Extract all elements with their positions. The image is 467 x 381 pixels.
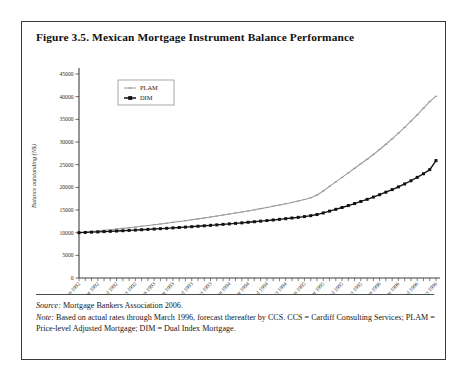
y-tick-label: 25000: [60, 162, 74, 168]
svg-text:Jan 1993: Jan 1993: [139, 280, 157, 294]
data-point-plam: [372, 154, 375, 155]
data-point-plam: [322, 190, 325, 191]
svg-text:Oct 1996: Oct 1996: [420, 280, 438, 294]
data-point-dim: [190, 225, 193, 228]
source-line: Source: Mortgage Bankers Association 200…: [36, 300, 436, 312]
svg-text:Apr 1995: Apr 1995: [307, 280, 326, 294]
data-point-dim: [222, 223, 225, 226]
y-tick-label: 30000: [60, 139, 74, 145]
footnote-divider: [36, 294, 434, 295]
y-tick-label: 0: [71, 275, 74, 281]
data-point-plam: [378, 149, 381, 150]
data-point-dim: [284, 217, 287, 220]
series-line-dim: [79, 161, 436, 233]
svg-text:Apr 1993: Apr 1993: [157, 280, 176, 294]
data-point-dim: [121, 229, 124, 232]
data-point-plam: [146, 225, 149, 226]
x-tick-label: Jul 1994: [252, 280, 269, 294]
data-point-dim: [316, 213, 319, 216]
data-point-dim: [403, 182, 406, 185]
data-point-dim: [334, 208, 337, 211]
data-point-plam: [115, 229, 118, 230]
data-point-dim: [409, 179, 412, 182]
data-point-dim: [265, 219, 268, 222]
data-point-dim: [171, 226, 174, 229]
data-point-plam: [278, 205, 281, 206]
svg-text:Oct 1994: Oct 1994: [270, 280, 288, 294]
x-tick-label: Jul 1995: [327, 280, 344, 294]
data-point-dim: [341, 206, 344, 209]
data-point-plam: [359, 163, 362, 164]
data-point-dim: [134, 229, 137, 232]
data-point-plam: [309, 197, 312, 198]
data-point-plam: [172, 222, 175, 223]
data-point-plam: [253, 209, 256, 210]
y-axis-title: Balance outstanding (N$): [30, 144, 38, 208]
svg-text:Jan 1995: Jan 1995: [289, 280, 307, 294]
svg-text:Oct 1995: Oct 1995: [345, 280, 363, 294]
data-point-plam: [391, 138, 394, 139]
data-point-dim: [234, 222, 237, 225]
data-point-plam: [222, 215, 225, 216]
data-point-plam: [353, 168, 356, 169]
data-point-dim: [96, 230, 99, 233]
svg-text:Jul 1992: Jul 1992: [102, 280, 119, 294]
data-point-dim: [391, 188, 394, 191]
x-tick-label: Oct 1993: [195, 280, 213, 294]
data-point-dim: [384, 191, 387, 194]
note-label: Note:: [36, 313, 54, 322]
data-point-plam: [128, 227, 131, 228]
figure-title: Figure 3.5. Mexican Mortgage Instrument …: [36, 31, 436, 43]
data-point-plam: [303, 199, 306, 200]
data-point-dim: [165, 227, 168, 230]
data-point-plam: [428, 101, 431, 102]
data-point-dim: [203, 224, 206, 227]
data-point-dim: [253, 220, 256, 223]
data-point-dim: [422, 172, 425, 175]
x-tick-label: Jan 1995: [289, 280, 307, 294]
data-point-dim: [353, 202, 356, 205]
svg-text:Jul 1993: Jul 1993: [177, 280, 194, 294]
data-point-plam: [234, 213, 237, 214]
data-point-dim: [322, 211, 325, 214]
x-tick-label: Jan 1993: [139, 280, 157, 294]
data-point-plam: [265, 207, 268, 208]
series-line-plam: [79, 96, 436, 232]
data-point-plam: [215, 216, 218, 217]
data-point-dim: [90, 231, 93, 234]
data-point-plam: [297, 201, 300, 202]
data-point-dim: [328, 210, 331, 213]
data-point-plam: [247, 210, 250, 211]
data-point-plam: [291, 202, 294, 203]
data-point-plam: [153, 224, 156, 225]
data-point-dim: [290, 217, 293, 220]
data-point-plam: [397, 133, 400, 134]
data-point-dim: [115, 230, 118, 233]
figure-container: Figure 3.5. Mexican Mortgage Instrument …: [21, 21, 446, 360]
data-point-plam: [284, 203, 287, 204]
svg-text:Jan 1996: Jan 1996: [364, 280, 382, 294]
data-point-plam: [203, 217, 206, 218]
data-point-plam: [341, 177, 344, 178]
legend-label-dim: DIM: [140, 94, 153, 101]
data-point-plam: [416, 114, 419, 115]
data-point-plam: [272, 206, 275, 207]
x-tick-label: Oct 1995: [345, 280, 363, 294]
svg-text:Oct 1993: Oct 1993: [195, 280, 213, 294]
y-tick-label: 15000: [60, 207, 74, 213]
data-point-plam: [121, 228, 124, 229]
svg-text:Jan 1992: Jan 1992: [64, 280, 82, 294]
data-point-dim: [397, 185, 400, 188]
data-point-dim: [297, 216, 300, 219]
data-point-plam: [422, 108, 425, 109]
data-point-plam: [178, 221, 181, 222]
data-point-dim: [228, 222, 231, 225]
x-tick-label: Jan 1996: [364, 280, 382, 294]
data-point-dim: [278, 218, 281, 221]
legend-marker-dim: [128, 96, 132, 100]
data-point-dim: [215, 223, 218, 226]
x-tick-label: Jul 1992: [102, 280, 119, 294]
data-point-dim: [240, 221, 243, 224]
data-point-plam: [140, 226, 143, 227]
data-point-dim: [366, 198, 369, 201]
